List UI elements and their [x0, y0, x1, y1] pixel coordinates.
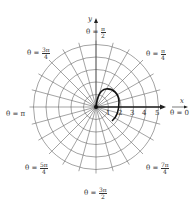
angle-label-0: θ = 0 [170, 110, 189, 117]
angle-label-prefix: θ = [27, 49, 39, 57]
x-axis-label: x [180, 97, 184, 105]
radial-tick-2: 2 [118, 109, 122, 117]
angle-label-pi-over-4: θ = π4 [146, 48, 166, 61]
radial-tick-1: 1 [106, 109, 110, 117]
origin-point [94, 105, 98, 109]
y-axis-arrow-icon [94, 18, 98, 23]
angle-label-denominator: 4 [161, 55, 165, 61]
angle-label-prefix: θ = [146, 50, 158, 58]
angle-label-pi: θ = π [6, 111, 25, 118]
radial-tick-4: 4 [142, 109, 146, 117]
angle-label-denominator: 2 [101, 194, 105, 200]
angle-label-pi-over-2: θ = π2 [86, 26, 106, 39]
angle-label-5pi-over-4: θ = 5π4 [25, 162, 48, 175]
angle-label-prefix: θ = [84, 189, 96, 197]
angle-label-prefix: θ = π [6, 110, 25, 118]
polar-graph-figure: 1 2 3 4 5 x y θ = π2 θ = 3π4 θ = π4 θ = … [0, 0, 196, 210]
radial-tick-5: 5 [155, 109, 159, 117]
angle-label-3pi-over-4: θ = 3π4 [27, 47, 50, 60]
y-axis-label: y [88, 15, 92, 23]
radial-tick-3: 3 [130, 109, 134, 117]
angle-label-prefix: θ = [86, 28, 98, 36]
angle-label-denominator: 4 [44, 54, 48, 60]
angle-label-prefix: θ = [25, 164, 37, 172]
angle-label-3pi-over-2: θ = 3π2 [84, 187, 107, 200]
angle-label-prefix: θ = [146, 164, 158, 172]
angle-label-prefix: θ = 0 [170, 109, 189, 117]
angle-label-denominator: 4 [163, 169, 167, 175]
angle-label-denominator: 2 [101, 33, 105, 39]
angle-label-7pi-over-4: θ = 7π4 [146, 162, 169, 175]
x-axis-arrow-icon [160, 105, 166, 110]
angle-label-denominator: 4 [42, 169, 46, 175]
